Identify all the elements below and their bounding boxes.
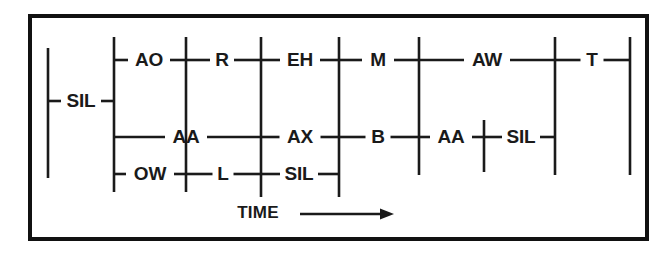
time-axis-label: TIME <box>237 203 278 222</box>
phone-label: SIL <box>67 90 97 111</box>
phone-label: AO <box>135 49 163 70</box>
phone-label: EH <box>287 49 313 70</box>
phone-label: L <box>217 163 229 184</box>
phone-label: AA <box>172 126 200 147</box>
phone-label: SIL <box>507 126 537 147</box>
phone-label: T <box>586 49 598 70</box>
phone-label: AW <box>472 49 502 70</box>
phone-label: M <box>370 49 386 70</box>
phone-label: OW <box>134 163 167 184</box>
figure-background <box>0 0 672 255</box>
phone-label: AA <box>437 126 465 147</box>
phonetic-lattice-figure: SILAOREHMAWTAAAXBAASILOWLSIL TIME <box>0 0 672 255</box>
lattice-canvas: SILAOREHMAWTAAAXBAASILOWLSIL TIME <box>0 0 672 255</box>
phone-label: SIL <box>285 163 315 184</box>
phone-label: B <box>371 126 385 147</box>
phone-label: AX <box>287 126 314 147</box>
phone-label: R <box>215 49 229 70</box>
